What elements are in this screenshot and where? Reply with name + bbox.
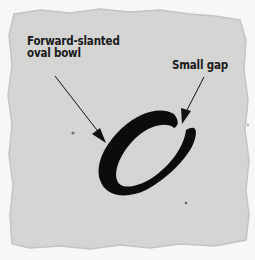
annotation-bowl-label: Forward-slanted oval bowl	[27, 35, 137, 59]
arrow-gap	[181, 77, 204, 124]
letter-o-glyph	[99, 110, 196, 195]
diagram-canvas: Forward-slanted oval bowl Small gap	[0, 0, 255, 260]
annotation-bowl-line2: oval bowl	[27, 47, 137, 59]
arrow-bowl	[55, 76, 106, 143]
annotation-gap-label: Small gap	[172, 59, 228, 71]
annotation-gap-line1: Small gap	[172, 58, 228, 72]
